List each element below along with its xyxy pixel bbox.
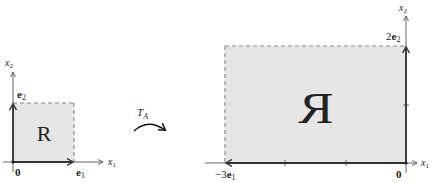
left-origin-dot	[11, 160, 14, 163]
e2-label: e2	[17, 88, 26, 102]
curved-arrow-icon	[134, 124, 165, 131]
left-panel: x2 x1 e2 e1 0 R	[3, 57, 116, 180]
transform-arrow: TA	[134, 106, 165, 131]
transform-label: TA	[137, 106, 148, 121]
right-origin-label: 0	[396, 168, 402, 180]
right-panel: x2 x1 2e2 −3e1 0 R	[205, 2, 429, 182]
right-x1-label: x1	[420, 157, 429, 170]
left-x1-label: x1	[107, 156, 116, 169]
left-x2-label: x2	[4, 57, 13, 70]
left-origin-label: 0	[15, 166, 21, 178]
right-x2-label: x2	[398, 2, 407, 15]
region-letter-transformed: R	[298, 84, 334, 133]
2e2-label: 2e2	[386, 30, 400, 44]
region-letter-original: R	[37, 121, 52, 146]
right-origin-dot	[404, 161, 407, 164]
e1-label: e1	[76, 166, 85, 180]
neg3e1-label: −3e1	[215, 168, 236, 182]
linear-transform-diagram: x2 x1 e2 e1 0 R TA x2 x1 2e2 −3e1 0	[0, 0, 439, 183]
